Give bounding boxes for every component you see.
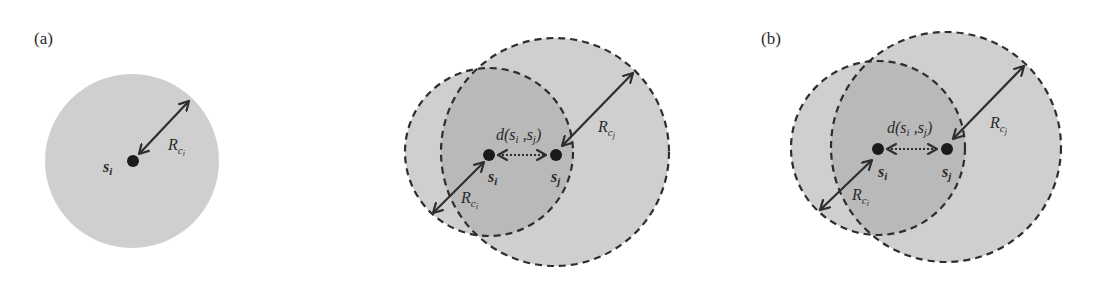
panel-b: (b) d(si ,sj) si sj Rcj Rci: [761, 29, 1061, 262]
sensor-node-j: [941, 143, 953, 155]
sensor-node-i: [127, 155, 139, 167]
panel-a: (a) si Rci: [34, 29, 219, 248]
sensor-node-i: [872, 143, 884, 155]
sensor-node-j: [550, 149, 562, 161]
panel-b-label: (b): [761, 29, 781, 48]
panel-a-label: (a): [34, 29, 53, 48]
sensor-node-i: [483, 149, 495, 161]
sensor-coverage-figure: (a) si Rci d(si ,sj) si sj Rcj Rci (b): [0, 0, 1095, 296]
panel-middle: d(si ,sj) si sj Rcj Rci: [405, 38, 669, 266]
